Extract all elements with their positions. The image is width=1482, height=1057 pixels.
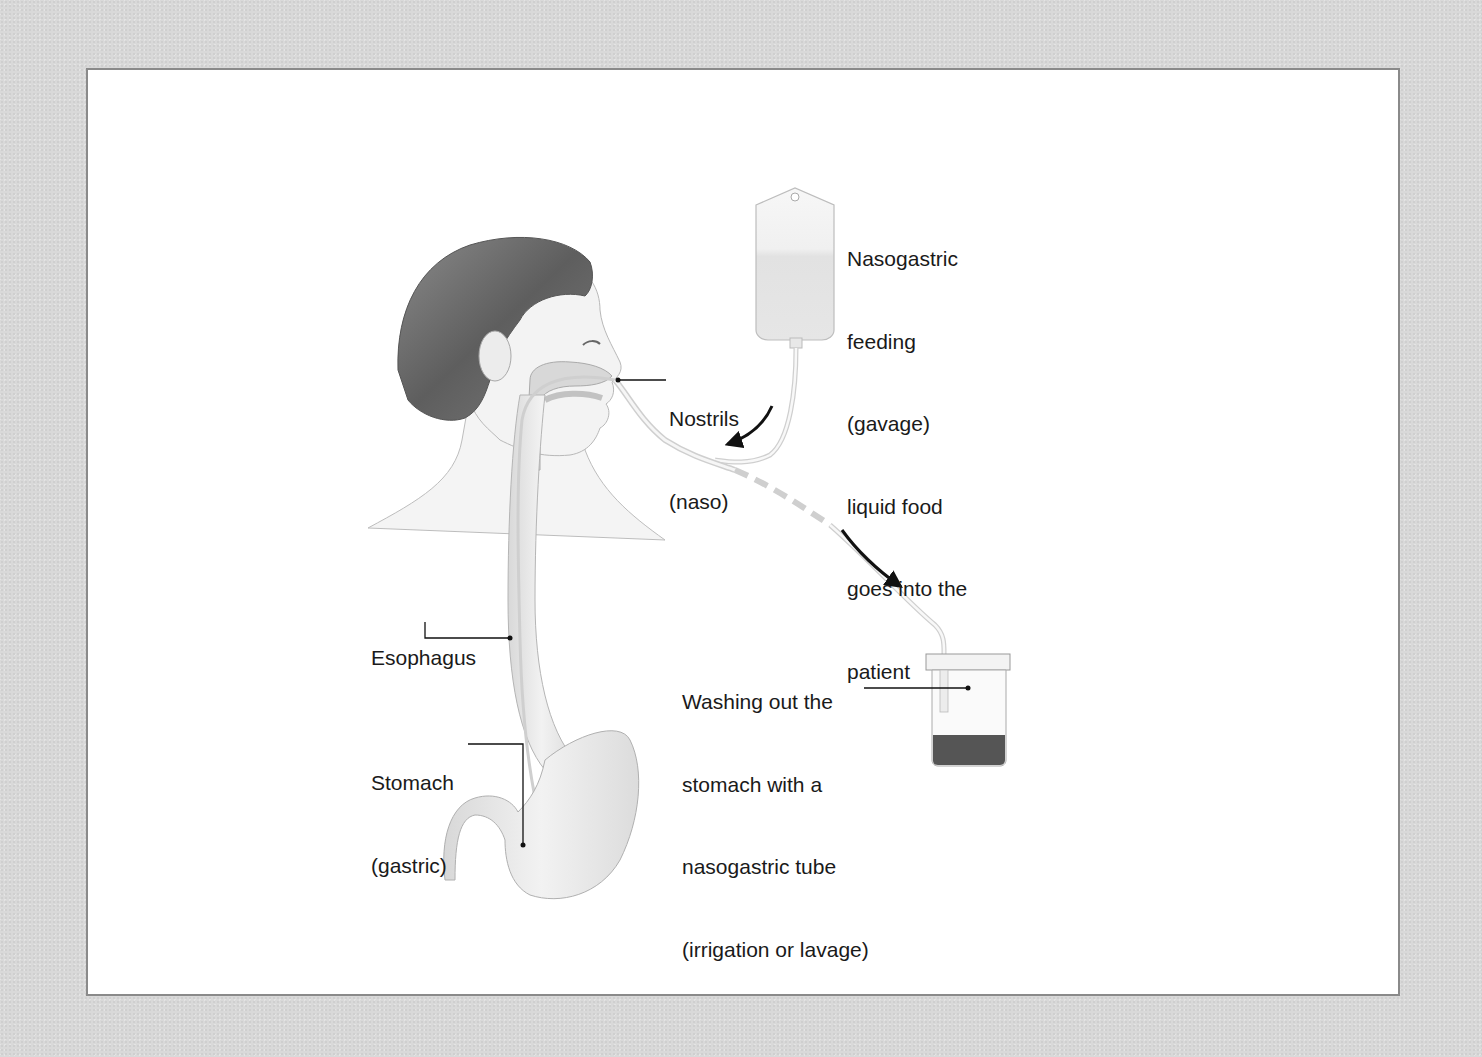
label-washing-line: Washing out the — [682, 688, 869, 716]
label-feeding-line: Nasogastric — [847, 245, 967, 273]
label-washing-line: (irrigation or lavage) — [682, 936, 869, 964]
label-stomach-line: (gastric) — [371, 852, 454, 880]
feeding-bag — [756, 188, 834, 348]
label-washing: Washing out the stomach with a nasogastr… — [682, 633, 869, 1018]
label-feeding-line: feeding — [847, 328, 967, 356]
label-nostrils-line: Nostrils — [669, 405, 739, 433]
label-stomach-line: Stomach — [371, 769, 454, 797]
label-esophagus: Esophagus — [371, 589, 476, 727]
head — [398, 237, 621, 470]
label-feeding-line: liquid food — [847, 493, 967, 521]
label-washing-line: nasogastric tube — [682, 853, 869, 881]
label-stomach: Stomach (gastric) — [371, 714, 454, 934]
label-nostrils-line: (naso) — [669, 488, 739, 516]
diagram-stage: Nasogastric feeding (gavage) liquid food… — [0, 0, 1482, 1057]
label-washing-line: stomach with a — [682, 771, 869, 799]
label-nostrils: Nostrils (naso) — [669, 350, 739, 570]
ear — [479, 331, 511, 381]
label-feeding-line: (gavage) — [847, 410, 967, 438]
lavage-tube-dashed — [735, 470, 830, 525]
label-feeding-line: goes into the — [847, 575, 967, 603]
label-esophagus-line: Esophagus — [371, 644, 476, 672]
